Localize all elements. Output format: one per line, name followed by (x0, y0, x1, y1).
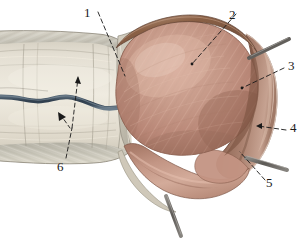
label-6: 6 (57, 160, 64, 173)
label-1: 1 (84, 6, 91, 19)
label-5: 5 (266, 176, 273, 189)
label-4: 4 (290, 121, 297, 134)
label-2: 2 (229, 8, 236, 21)
leader-dot-2 (191, 63, 194, 66)
leader-dot-3 (241, 87, 244, 90)
anatomical-figure: 1 2 3 4 5 6 (0, 0, 305, 239)
spermatic-cord-group (0, 31, 132, 164)
illustration-canvas (0, 0, 305, 239)
label-3: 3 (288, 59, 295, 72)
